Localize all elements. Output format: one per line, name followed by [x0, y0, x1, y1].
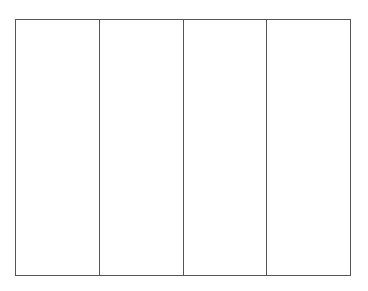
grid-column-1: [16, 20, 100, 275]
four-column-grid: [15, 19, 351, 276]
grid-column-4: [267, 20, 350, 275]
grid-column-2: [100, 20, 184, 275]
grid-column-3: [184, 20, 268, 275]
